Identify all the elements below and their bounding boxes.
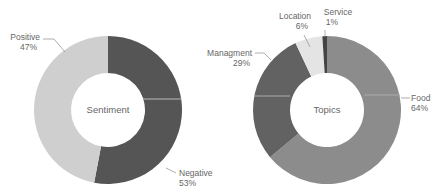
- leader-line-positive: [54, 39, 65, 52]
- label-negative-pct: 53%: [179, 178, 196, 188]
- sentiment-donut: Sentiment Positive 47% Negative 53%: [10, 32, 213, 188]
- leader-line-negative: [166, 168, 176, 173]
- label-negative-name: Negative: [179, 168, 213, 178]
- label-location-name: Location: [279, 11, 311, 21]
- label-food-name: Food: [411, 93, 431, 103]
- label-positive-name: Positive: [10, 32, 40, 42]
- topics-donut: Topics Food 64% Managment 29% Location 6…: [207, 7, 431, 184]
- label-food-pct: 64%: [411, 103, 428, 113]
- label-service-pct: 1%: [326, 17, 339, 27]
- sentiment-center-label: Sentiment: [87, 104, 130, 115]
- label-positive-pct: 47%: [20, 42, 37, 52]
- charts-canvas: Sentiment Positive 47% Negative 53% Topi…: [0, 0, 441, 195]
- label-location-pct: 6%: [296, 21, 309, 31]
- topics-center-label: Topics: [314, 104, 341, 115]
- label-managment-pct: 29%: [233, 58, 250, 68]
- label-managment-name: Managment: [207, 48, 253, 58]
- label-service-name: Service: [324, 7, 353, 17]
- leader-line-managment: [264, 53, 271, 60]
